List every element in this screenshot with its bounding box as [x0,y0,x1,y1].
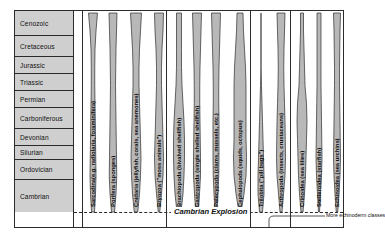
era-row-jurassic: Jurassic [15,57,73,74]
era-label: Carboniferous [15,115,63,122]
era-label: Devonian [15,134,49,141]
taxon-label: Stelleroidea (starfish) [316,148,322,207]
era-row-devonian: Devonian [15,129,73,146]
plot-area: Cambrian Explosion More echinoderm class… [74,11,343,227]
section-divider [290,11,291,227]
era-row-cretaceous: Cretaceous [15,36,73,57]
taxon-label: Porifera (sponges) [110,156,116,207]
era-label: Ordovician [15,166,53,173]
era-label: Cretaceous [15,43,55,50]
era-row-permian: Permian [15,91,73,108]
taxon-label: Sarcodina(e.g. radiolaria, foraminifera) [90,101,96,207]
taxon-label: Arthropoda (insects, crustaceans) [278,113,284,207]
era-row-cenozoic: Cenozoic [15,11,73,36]
taxon-label: Brachiopoda (bivalved shellfish) [176,118,182,207]
taxon-label: Cnidaria (jellyfish, corals, sea anemone… [133,94,139,207]
era-row-ordovician: Ordovician [15,160,73,180]
cambrian-explosion-label: Cambrian Explosion [171,207,250,216]
era-row-silurian: Silurian [15,146,73,160]
era-label: Cenozoic [15,20,48,27]
section-divider [82,11,83,227]
taxon-label: Gastropoda (single shelled shellfish) [194,106,200,207]
era-label: Jurassic [15,62,45,69]
taxon-label: Bryozoa ("moss animals") [156,135,162,207]
era-column: CenozoicCretaceousJurassicTriassicPermia… [15,11,74,212]
section-divider [166,11,167,227]
taxon-label: Trilobita ("pill bugs") [258,150,264,207]
era-label: Silurian [15,149,43,156]
era-label: Permian [15,96,45,103]
diagram-frame: CenozoicCretaceousJurassicTriassicPermia… [14,10,344,228]
era-label: Triassic [15,79,43,86]
taxon-label: Crinoidea (sea lilies) [299,151,305,207]
era-column-rule [73,11,74,227]
era-row-carboniferous: Carboniferous [15,108,73,129]
era-label: Cambrian [15,193,49,200]
era-row-cambrian: Cambrian [15,180,73,212]
taxon-label: Echinoidea (sea urchins) [334,138,340,207]
more-echinoderm-classes-label: More echinoderm classes [326,212,385,218]
taxon-label: Cephalopoda (squids, octopus) [237,120,243,207]
section-divider [250,11,251,227]
taxon-label: Pelecypoda (clams, mussels, etc.) [213,113,219,207]
echinoderm-leader-line [267,211,327,231]
era-row-triassic: Triassic [15,74,73,91]
